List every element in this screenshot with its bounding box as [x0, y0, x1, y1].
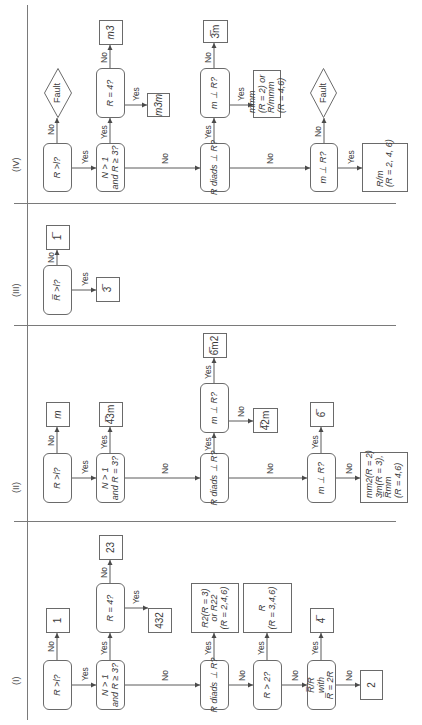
decision-box-ii-q2: N > 1and R = 3? [96, 453, 125, 503]
node-text: m ⊥ R? [210, 77, 220, 109]
fault-diamond-iv-fault1: Fault [44, 68, 72, 118]
node-text: 1̅ [53, 235, 63, 241]
node-text: 4̅2m [261, 411, 271, 430]
edge-label-yes: Yes [310, 641, 320, 655]
node-text: (R = 2,4,6) [220, 587, 230, 630]
node-text: R̅ = 2R [326, 671, 336, 699]
node-text: 3̅ [103, 287, 113, 293]
edge-label-yes: Yes [203, 641, 213, 655]
node-text: R diads ⊥ R? [210, 657, 220, 712]
node-text: 23 [106, 542, 116, 553]
decision-box-i-q1: R >l? [43, 660, 72, 710]
edge-label-yes: Yes [99, 641, 109, 655]
edge-label-no: No [160, 670, 170, 681]
result-box-i-r1: 1 [46, 608, 70, 633]
edge-label-yes: Yes [131, 590, 141, 604]
decision-box-iv-q2: N > 1and R ≥ 3? [96, 143, 125, 192]
divider-i-ii [14, 521, 396, 522]
decision-box-ii-q1: R >l? [43, 453, 72, 503]
node-text: Fault [319, 83, 329, 103]
fault-diamond-iv-fault2: Fault [310, 68, 337, 118]
section-label-iv: (IV) [11, 158, 21, 173]
decision-box-i-q2: N > 1and R ≥ 3? [96, 660, 125, 710]
decision-box-ii-q3: R diads ⊥ R? [200, 453, 229, 503]
edge-label-no: No [99, 567, 109, 578]
edge-label-yes: Yes [203, 365, 213, 379]
result-box-ii-r42m: 4̅2m [253, 408, 278, 433]
section-label-i: (I) [11, 677, 21, 686]
node-text: R >l? [53, 467, 63, 488]
edge-label-no: No [344, 463, 354, 474]
edge-label-no: No [265, 153, 275, 164]
node-text: Fault [53, 83, 63, 103]
edge-label-no: No [160, 153, 170, 164]
decision-box-i-q5: R > 2? [253, 660, 282, 710]
edge-label-yes: Yes [80, 460, 90, 474]
node-text: (R = 4,6) [277, 78, 287, 113]
decision-box-iv-q4: R diads ⊥ R? [200, 143, 230, 192]
node-text: m ⊥ R? [317, 462, 327, 494]
decision-box-ii-q5: m ⊥ R? [307, 453, 336, 503]
edge-label-no: No [344, 670, 354, 681]
edge-label-no: No [46, 124, 56, 135]
node-text: m ⊥ R? [319, 152, 329, 184]
result-box-iv-rmmm: mmm(R = 2) orR/mmm(R = 4,6) [253, 70, 281, 118]
node-text: R = 4? [106, 80, 116, 107]
edge-label-yes: Yes [256, 641, 266, 655]
result-box-iv-rRm: R/m(R = 2, 4, 6) [362, 143, 408, 192]
divider-iii-iv [14, 203, 396, 204]
flowchart-canvas: (I)(II)(III)(IV)NoYesYesNoYesNoYesNoYesN… [0, 0, 422, 725]
decision-box-iv-q3: R = 4? [96, 68, 125, 118]
decision-box-iv-q6: m ⊥ R? [310, 143, 338, 192]
node-text: (R = 2, 4, 6) [385, 139, 395, 187]
edge-label-yes: Yes [99, 435, 109, 449]
edge-label-yes: Yes [203, 437, 213, 451]
node-text: 1 [53, 618, 63, 624]
node-text: (R = 4,6) [394, 463, 404, 498]
result-box-iii-r3bar: 3̅ [96, 277, 120, 302]
node-text: 3̅m [211, 25, 221, 39]
edge-label-no: No [99, 52, 109, 63]
result-box-iv-rm3: m3 [99, 20, 123, 45]
result-box-i-r2: 2 [360, 670, 383, 700]
main-flow-line [27, 5, 28, 720]
decision-box-ii-q4: m ⊥ R? [200, 383, 229, 433]
node-text: and R ≥ 3? [111, 146, 121, 190]
node-text: R > 2? [263, 672, 273, 699]
node-text: R >l? [53, 157, 63, 178]
result-box-i-r432: 432 [148, 608, 172, 633]
node-text: m ⊥ R? [210, 392, 220, 424]
result-box-i-rR2: R2(R = 3)or R22(R = 2,4,6) [191, 583, 239, 633]
edge-label-yes: Yes [346, 150, 356, 164]
result-box-i-rR: R(R = 3,4,6) [243, 583, 292, 633]
node-text: R diads ⊥ R? [210, 140, 220, 195]
edge-label-yes: Yes [236, 87, 246, 101]
edge-label-no: No [313, 126, 323, 137]
edge-label-no: No [203, 52, 213, 63]
node-text: R = 4? [106, 595, 116, 622]
decision-box-iv-q1: R >l? [43, 143, 72, 192]
node-text: m [53, 410, 63, 418]
edge-label-yes: Yes [80, 667, 90, 681]
node-text: 432 [155, 612, 165, 629]
result-box-ii-r6m2: 6̅m2 [203, 333, 227, 358]
node-text: (R = 3,4,6) [268, 587, 278, 630]
node-text: 6̅ [317, 412, 327, 418]
edge-label-yes: Yes [203, 125, 213, 139]
edge-label-no: No [160, 463, 170, 474]
result-box-i-r4bar: 4̅ [310, 608, 334, 633]
node-text: m3m [154, 94, 164, 116]
edge-label-yes: Yes [80, 272, 90, 286]
divider-ii-iii [14, 325, 396, 326]
decision-box-i-q6: R̅/RwithR̅ = 2R [307, 660, 336, 710]
result-box-iv-r3barm: 3̅m [203, 20, 228, 43]
edge-label-yes: Yes [80, 150, 90, 164]
result-box-ii-rm: m [46, 402, 70, 427]
decision-box-iii-q1: R̅ >l? [43, 265, 72, 315]
edge-label-no: No [265, 463, 275, 474]
decision-box-i-q3: R = 4? [96, 583, 125, 633]
result-box-iii-r1bar: 1̅ [46, 225, 70, 250]
edge-label-no: No [46, 435, 56, 446]
section-label-ii: (II) [11, 482, 21, 493]
node-text: m3 [106, 26, 116, 40]
